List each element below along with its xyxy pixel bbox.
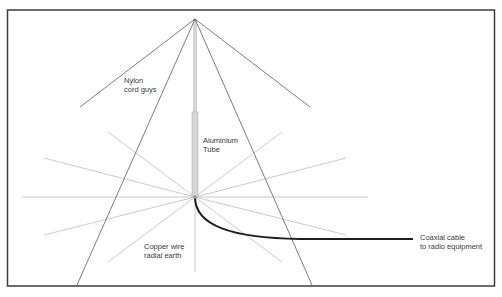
label-line: Nylon xyxy=(124,76,157,85)
label-line: cord guys xyxy=(124,85,157,94)
radial-wire xyxy=(195,197,346,235)
label-line: Aluminium xyxy=(203,136,238,145)
label-line: Tube xyxy=(203,145,238,154)
antenna-diagram xyxy=(0,0,502,297)
tube-lower-section xyxy=(192,112,198,197)
label-aluminium-tube: Aluminium Tube xyxy=(203,136,238,154)
tube-upper-section xyxy=(194,19,197,113)
label-line: Copper wire xyxy=(144,242,184,251)
feed-point xyxy=(193,195,197,199)
label-line: Coaxial cable xyxy=(420,233,482,242)
radial-wire xyxy=(44,197,195,235)
label-copper-wire-radial-earth: Copper wire radial earth xyxy=(144,242,184,260)
radial-wire xyxy=(195,197,282,262)
aluminium-tube xyxy=(192,19,198,197)
label-coaxial-cable: Coaxial cable to radio equipment xyxy=(420,233,482,251)
radial-wire xyxy=(44,158,195,197)
coaxial-cable xyxy=(195,197,413,239)
label-nylon-cord-guys: Nylon cord guys xyxy=(124,76,157,94)
label-line: radial earth xyxy=(144,251,184,260)
label-line: to radio equipment xyxy=(420,242,482,251)
guy-line-far-right xyxy=(195,19,310,107)
radial-wire xyxy=(108,132,195,197)
